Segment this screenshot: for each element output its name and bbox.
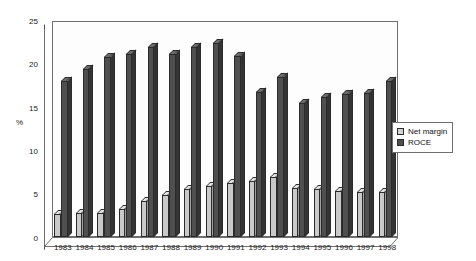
bar-roce-1992 bbox=[256, 92, 262, 237]
bar-side-face bbox=[132, 49, 136, 237]
bar-roce-1987 bbox=[148, 47, 154, 237]
bar-front-face bbox=[364, 93, 370, 237]
bar-side-face bbox=[392, 77, 396, 237]
bar-front-face bbox=[184, 189, 190, 237]
bar-front-face bbox=[335, 191, 341, 237]
bar-net-1993 bbox=[270, 177, 276, 237]
legend-label-net-margin: Net margin bbox=[408, 127, 447, 136]
bar-front-face bbox=[314, 189, 320, 237]
bar-front-face bbox=[97, 213, 103, 237]
plot-area bbox=[52, 21, 398, 237]
bar-net-1996 bbox=[335, 191, 341, 237]
legend: Net margin ROCE bbox=[392, 122, 453, 153]
bar-roce-1990 bbox=[213, 43, 219, 237]
bar-roce-1991 bbox=[234, 56, 240, 237]
bar-roce-1985 bbox=[104, 57, 110, 237]
bar-front-face bbox=[227, 183, 233, 237]
bar-net-1992 bbox=[249, 181, 255, 237]
bar-group bbox=[74, 21, 96, 237]
bar-net-1990 bbox=[206, 186, 212, 237]
bar-front-face bbox=[234, 56, 240, 237]
bar-front-face bbox=[191, 47, 197, 237]
bar-front-face bbox=[206, 186, 212, 237]
bar-net-1997 bbox=[357, 192, 363, 237]
bar-group bbox=[312, 21, 334, 237]
bar-side-face bbox=[111, 53, 115, 237]
bar-side-face bbox=[176, 49, 180, 237]
bar-group bbox=[160, 21, 182, 237]
x-tick-label-1993: 1993 bbox=[270, 243, 288, 252]
x-tick-label-1987: 1987 bbox=[140, 243, 158, 252]
bar-roce-1989 bbox=[191, 47, 197, 237]
bar-net-1998 bbox=[379, 192, 385, 237]
bar-group bbox=[247, 21, 269, 237]
bar-roce-1995 bbox=[321, 97, 327, 237]
bar-side-face bbox=[197, 42, 201, 237]
bar-side-face bbox=[370, 88, 374, 237]
bar-side-face bbox=[262, 87, 266, 237]
bar-front-face bbox=[277, 77, 283, 237]
bar-front-face bbox=[54, 214, 60, 237]
bar-net-1995 bbox=[314, 189, 320, 237]
plot-left-wall bbox=[44, 29, 52, 245]
bar-net-1994 bbox=[292, 188, 298, 237]
bar-group bbox=[182, 21, 204, 237]
bar-front-face bbox=[126, 54, 132, 237]
bar-net-1985 bbox=[97, 213, 103, 237]
bar-group bbox=[117, 21, 139, 237]
bar-net-1989 bbox=[184, 189, 190, 237]
bar-roce-1988 bbox=[169, 54, 175, 237]
bar-side-face bbox=[219, 38, 223, 237]
x-tick-label-1995: 1995 bbox=[313, 243, 331, 252]
bar-front-face bbox=[162, 195, 168, 237]
bar-front-face bbox=[256, 92, 262, 237]
bar-group bbox=[225, 21, 247, 237]
bar-front-face bbox=[83, 69, 89, 237]
bar-group bbox=[355, 21, 377, 237]
bar-side-face bbox=[284, 73, 288, 237]
bar-front-face bbox=[379, 192, 385, 237]
x-tick-label-1986: 1986 bbox=[119, 243, 137, 252]
bar-front-face bbox=[342, 94, 348, 237]
bar-roce-1997 bbox=[364, 93, 370, 237]
bar-group bbox=[139, 21, 161, 237]
bar-net-1991 bbox=[227, 183, 233, 237]
bar-side-face bbox=[349, 90, 353, 237]
bar-roce-1993 bbox=[277, 77, 283, 237]
x-tick-label-1998: 1998 bbox=[378, 243, 396, 252]
bar-group bbox=[203, 21, 225, 237]
bar-group bbox=[333, 21, 355, 237]
x-tick-label-1996: 1996 bbox=[335, 243, 353, 252]
x-tick-label-1989: 1989 bbox=[184, 243, 202, 252]
bar-front-face bbox=[249, 181, 255, 237]
bar-side-face bbox=[68, 77, 72, 237]
bar-front-face bbox=[169, 54, 175, 237]
bar-front-face bbox=[76, 213, 82, 237]
x-tick-label-1992: 1992 bbox=[249, 243, 267, 252]
bar-net-1984 bbox=[76, 213, 82, 237]
legend-swatch-net-margin-icon bbox=[397, 128, 404, 135]
bar-front-face bbox=[61, 81, 67, 237]
bar-group bbox=[268, 21, 290, 237]
bar-side-face bbox=[241, 51, 245, 237]
bar-group bbox=[95, 21, 117, 237]
bar-front-face bbox=[119, 209, 125, 238]
x-tick-label-1985: 1985 bbox=[97, 243, 115, 252]
bar-net-1986 bbox=[119, 209, 125, 238]
y-axis-title: % bbox=[16, 118, 23, 127]
bar-front-face bbox=[386, 81, 392, 237]
bar-front-face bbox=[213, 43, 219, 237]
bar-net-1983 bbox=[54, 214, 60, 237]
bar-roce-1994 bbox=[299, 103, 305, 237]
x-axis: 1983198419851986198719881989199019911992… bbox=[44, 243, 398, 257]
x-tick-label-1988: 1988 bbox=[162, 243, 180, 252]
x-tick-label-1990: 1990 bbox=[205, 243, 223, 252]
bar-group bbox=[52, 21, 74, 237]
legend-label-roce: ROCE bbox=[408, 138, 431, 147]
y-tick-label-15: 15 bbox=[14, 104, 38, 113]
bar-front-face bbox=[270, 177, 276, 237]
x-tick-label-1984: 1984 bbox=[76, 243, 94, 252]
bar-roce-1986 bbox=[126, 54, 132, 237]
legend-swatch-roce-icon bbox=[397, 139, 404, 146]
x-tick-label-1991: 1991 bbox=[227, 243, 245, 252]
